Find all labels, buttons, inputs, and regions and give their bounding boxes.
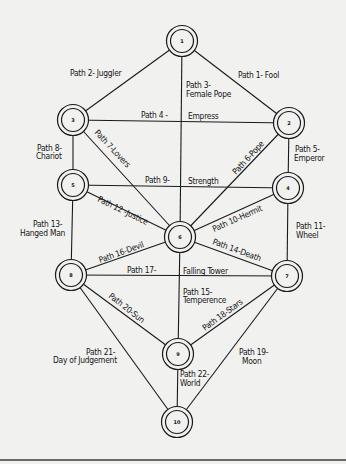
path-11-label-line2: Wheel bbox=[296, 230, 319, 240]
tree-of-life-diagram: 1 2 3 4 5 6 7 8 9 10 Path 2- Juggler Pat… bbox=[0, 0, 346, 464]
path-1-label: Path 1- Fool bbox=[238, 70, 279, 80]
path-4-label-left: Path 4 - bbox=[141, 110, 168, 120]
path-8-label-line2: Chariot bbox=[36, 151, 62, 161]
node-1: 1 bbox=[167, 26, 198, 57]
node-4: 4 bbox=[273, 173, 304, 204]
path-6-label: Path 6-Pope bbox=[230, 138, 266, 176]
node-6: 6 bbox=[165, 222, 196, 253]
path-15-line bbox=[178, 237, 180, 354]
node-10-label: 10 bbox=[174, 419, 181, 425]
path-2-label: Path 2- Juggler bbox=[70, 68, 123, 78]
node-6-label: 6 bbox=[178, 234, 182, 240]
node-5-label: 5 bbox=[71, 182, 75, 188]
path-4-label-right: Empress bbox=[188, 111, 219, 121]
node-4-label: 4 bbox=[286, 185, 290, 191]
path-21-label-line2: Day of Judgement bbox=[53, 355, 117, 365]
path-16-line bbox=[71, 237, 180, 275]
node-1-label: 1 bbox=[180, 38, 184, 44]
node-9: 9 bbox=[163, 339, 194, 370]
path-3-line bbox=[180, 41, 182, 237]
node-3-label: 3 bbox=[71, 117, 75, 123]
node-8: 8 bbox=[56, 260, 87, 291]
path-10-line bbox=[180, 188, 288, 237]
node-5: 5 bbox=[58, 170, 89, 201]
path-13-label-line2: Hanged Man bbox=[20, 228, 66, 238]
path-2-line bbox=[73, 41, 182, 120]
path-19-label-line2: Moon bbox=[242, 356, 262, 366]
path-17-line bbox=[71, 275, 287, 276]
node-3: 3 bbox=[58, 105, 89, 136]
path-17-label-left: Path 17- bbox=[127, 265, 157, 275]
path-20-label: Path 20-Sun bbox=[107, 291, 147, 326]
node-2: 2 bbox=[274, 108, 305, 139]
node-9-label: 9 bbox=[176, 351, 180, 357]
path-10-label: Path 10-Hermit bbox=[211, 203, 264, 234]
path-12-label: Path 12 -Justice bbox=[96, 194, 150, 227]
node-8-label: 8 bbox=[69, 272, 73, 278]
node-7-label: 7 bbox=[285, 273, 289, 279]
path-9-label-right: Strength bbox=[188, 176, 219, 186]
node-7: 7 bbox=[272, 261, 303, 292]
path-20-line bbox=[71, 275, 178, 354]
path-22-label-line2: World bbox=[180, 378, 201, 388]
bottom-divider bbox=[0, 459, 346, 461]
path-5-label-line2: Emperor bbox=[294, 153, 326, 163]
path-14-label: Path 14-Death bbox=[211, 236, 263, 263]
path-3-label-line2: Female Pope bbox=[186, 89, 232, 99]
path-17-label-right: Falling Tower bbox=[183, 266, 229, 276]
node-2-label: 2 bbox=[287, 120, 291, 126]
node-10: 10 bbox=[162, 407, 193, 438]
path-15-label-line2: Temperence bbox=[182, 295, 227, 305]
path-9-label-left: Path 9- bbox=[145, 175, 170, 185]
